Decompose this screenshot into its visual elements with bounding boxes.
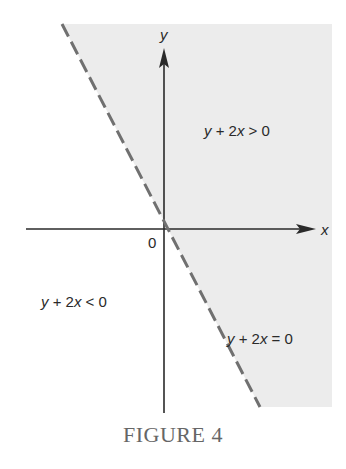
region-label-negative: y + 2x < 0 <box>40 293 107 310</box>
shaded-region-positive <box>62 24 332 407</box>
origin-label: 0 <box>148 234 156 251</box>
x-axis-label: x <box>320 221 329 238</box>
figure-caption: FIGURE 4 <box>0 422 346 448</box>
boundary-equation-label: y + 2x = 0 <box>226 330 293 347</box>
region-label-positive: y + 2x > 0 <box>203 122 270 139</box>
inequality-graph: y x 0 y + 2x > 0 y + 2x < 0 y + 2x = 0 <box>0 0 346 469</box>
